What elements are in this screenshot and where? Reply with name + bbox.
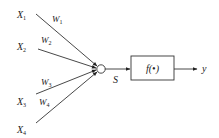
weight-label-w1: W1 — [52, 14, 63, 25]
activation-label: f(•) — [146, 63, 160, 75]
sum-label: S — [113, 74, 118, 85]
weight-label-w4: W4 — [39, 97, 50, 108]
output-label: y — [201, 63, 207, 74]
weight-label-w3: W3 — [41, 77, 52, 88]
input-arrow-2 — [38, 49, 96, 68]
input-label-x4: X4 — [16, 124, 26, 136]
input-label-x2: X2 — [16, 41, 26, 53]
neuron-diagram: X1 X2 X3 X4 W1 W2 W3 W4 S f(•) y — [0, 0, 219, 138]
summing-node — [97, 65, 105, 73]
weight-label-w2: W2 — [41, 35, 52, 46]
input-label-x1: X1 — [16, 9, 26, 21]
input-label-x3: X3 — [16, 96, 26, 108]
